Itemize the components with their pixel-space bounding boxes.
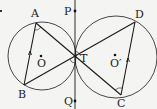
label-o-prime: O′ (110, 57, 122, 70)
stray-mark (0, 10, 2, 12)
label-d: D (135, 8, 144, 21)
label-q: Q (64, 95, 73, 108)
center-o-prime (114, 54, 117, 57)
point-p (74, 10, 77, 13)
label-c: C (117, 97, 125, 109)
label-o: O (37, 57, 46, 70)
label-b: B (18, 88, 26, 101)
label-t: T (80, 52, 88, 65)
label-a: A (30, 7, 40, 20)
segment-ac (36, 23, 121, 95)
point-q (74, 100, 77, 103)
label-p: P (64, 5, 72, 18)
tangent-circles-diagram: A B C D T P Q O O′ (0, 0, 157, 109)
angle-arc-t-lower-icon (70, 59, 75, 63)
segment-ab (24, 23, 36, 85)
